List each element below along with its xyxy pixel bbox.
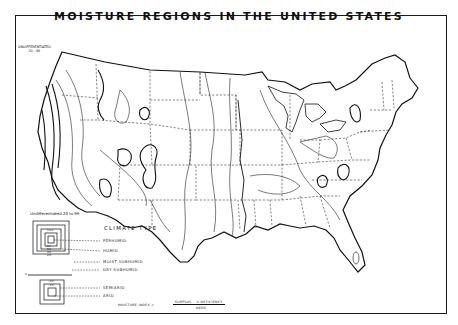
moisture-index-formula: MOISTURE INDEX = SURPLUS - .6 DEFICIENCY… — [118, 303, 154, 307]
undifferentiated-annotation: UNDIFFERENTIATED 20 - 99 — [18, 45, 51, 53]
legend-label-arid: ARID — [103, 294, 114, 298]
moisture-contours — [56, 70, 340, 250]
legend-label-humid: HUMID — [103, 249, 118, 253]
state-boundaries — [62, 64, 394, 230]
formula-prefix: MOISTURE INDEX = — [118, 303, 154, 307]
legend-label-moist-subhumid: MOIST SUBHUMID — [103, 260, 143, 264]
legend-label-dry-subhumid: DRY SUBHUMID — [103, 268, 138, 272]
legend-value-20: 20 — [47, 253, 52, 257]
formula-numerator: SURPLUS - .6 DEFICIENCY — [173, 300, 225, 305]
great-lakes — [268, 86, 346, 132]
legend-label-semiarid: SEMIARID — [103, 286, 125, 290]
legend-value-minus40: -40 — [48, 283, 54, 287]
us-outline — [38, 52, 418, 272]
formula-denominator: NEED — [196, 306, 206, 310]
legend-header: Undifferentiated 20 to 99 — [30, 211, 79, 216]
legend-title: CLIMATE TYPE — [104, 225, 158, 231]
legend-value-100: 100 — [47, 228, 54, 232]
annotation-line-2: 20 - 99 — [18, 49, 51, 53]
lake-okeechobee — [353, 252, 359, 264]
mountain-contours — [42, 70, 360, 200]
mississippi-river — [238, 100, 246, 232]
legend-label-perhumid: PERHUMID — [103, 239, 127, 243]
us-moisture-map — [0, 0, 458, 325]
legend-value-0: 0 — [25, 272, 27, 276]
